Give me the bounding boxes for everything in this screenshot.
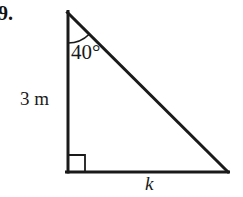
angle-label: 40° xyxy=(71,41,100,64)
geometry-figure: 19. 40° 3 m k xyxy=(0,0,243,197)
right-angle-marker xyxy=(68,155,85,172)
hypotenuse-line xyxy=(68,13,229,173)
base-label: k xyxy=(145,173,153,195)
vertical-leg-label: 3 m xyxy=(20,88,49,110)
